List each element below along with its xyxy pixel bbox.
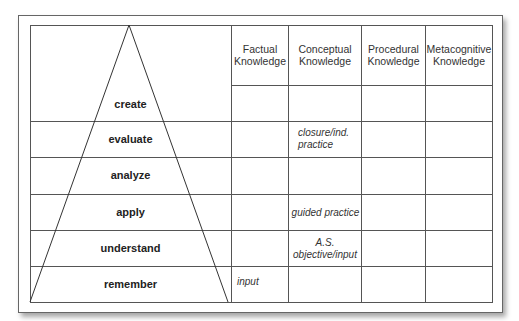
level-remember: remember [30,278,231,290]
cell-understand-conceptual: A.S.objective/input [289,237,361,261]
header-conceptual: ConceptualKnowledge [289,43,361,67]
cell-remember-factual: input [237,276,259,288]
level-understand: understand [30,242,231,254]
header-metacognitive: MetacognitiveKnowledge [426,43,492,67]
cell-evaluate-conceptual: closure/ind.practice [298,127,349,151]
level-apply: apply [30,206,231,218]
header-factual: FactualKnowledge [231,43,289,67]
level-analyze: analyze [30,169,231,181]
level-create: create [30,98,231,110]
header-procedural: ProceduralKnowledge [362,43,425,67]
cell-apply-conceptual: guided practice [289,207,362,219]
level-evaluate: evaluate [30,133,231,145]
pyramid-triangle [30,25,228,302]
